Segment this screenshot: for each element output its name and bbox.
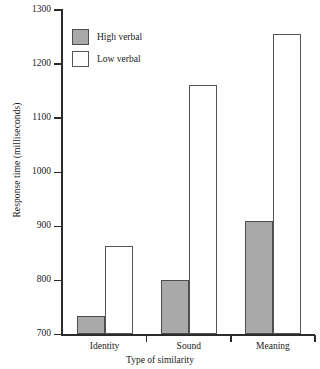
bar-identity-low-verbal: [105, 246, 133, 334]
y-axis-label: Response time (milliseconds): [12, 60, 22, 260]
legend-swatch-low-verbal-icon: [72, 51, 89, 67]
bar-meaning-low-verbal: [273, 34, 301, 334]
x-axis-category-label-sound: Sound: [177, 341, 201, 351]
y-axis-tick-label: 1100: [32, 113, 51, 123]
x-axis-tick: [146, 335, 147, 342]
legend-label-high-verbal: High verbal: [97, 32, 142, 42]
bar-sound-low-verbal: [189, 85, 217, 335]
legend-swatch-high-verbal-icon: [72, 29, 89, 45]
legend-item-high-verbal: High verbal: [72, 26, 142, 48]
y-axis-tick-label: 1000: [32, 167, 51, 177]
x-axis-category-label-meaning: Meaning: [256, 341, 290, 351]
bar-identity-high-verbal: [77, 316, 105, 335]
x-axis-tick: [314, 335, 315, 342]
y-axis-tick-label: 1300: [32, 5, 51, 15]
y-axis-tick-label: 800: [37, 276, 51, 286]
bar-sound-high-verbal: [161, 280, 189, 334]
bar-meaning-high-verbal: [245, 221, 273, 335]
x-axis-category-label-identity: Identity: [90, 341, 120, 351]
chart-legend: High verbal Low verbal: [72, 26, 142, 70]
x-axis-label: Type of similarity: [0, 355, 320, 365]
y-axis-line: [61, 9, 63, 336]
y-axis-tick-label: 900: [37, 222, 51, 232]
y-axis-tick-label: 700: [37, 330, 51, 340]
legend-label-low-verbal: Low verbal: [97, 54, 141, 64]
bar-chart-figure: Response time (milliseconds) 70080090010…: [0, 0, 320, 369]
legend-item-low-verbal: Low verbal: [72, 48, 142, 70]
x-axis-tick: [230, 335, 231, 342]
y-axis-tick-label: 1200: [32, 59, 51, 69]
